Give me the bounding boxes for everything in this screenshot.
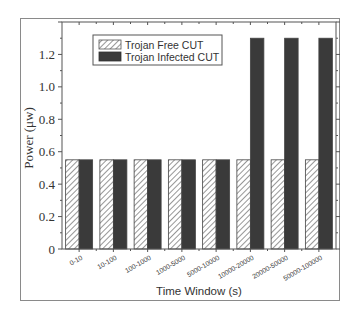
bar-trojan-free bbox=[271, 160, 285, 249]
x-axis-title: Time Window (s) bbox=[156, 285, 242, 297]
x-tick-label: 5000-10000 bbox=[186, 254, 221, 278]
bar-trojan-infected bbox=[319, 38, 333, 249]
y-tick-label: 0.4 bbox=[39, 177, 56, 192]
bar-trojan-infected bbox=[285, 38, 299, 249]
bar-trojan-infected bbox=[79, 160, 93, 249]
x-tick-label: 1000-5000 bbox=[155, 254, 187, 276]
bar-trojan-free bbox=[203, 160, 217, 249]
bar-trojan-free bbox=[100, 160, 114, 249]
bar-trojan-infected bbox=[148, 160, 162, 249]
bar-trojan-infected bbox=[113, 160, 127, 249]
bar-chart: 00.20.40.60.81.01.2 0-1010-100100-100010… bbox=[0, 0, 355, 320]
bar-trojan-infected bbox=[182, 160, 196, 249]
x-tick-label: 100-1000 bbox=[124, 254, 153, 275]
bars-group bbox=[66, 38, 333, 249]
y-tick-label: 0.8 bbox=[39, 112, 55, 127]
bar-trojan-free bbox=[305, 160, 319, 249]
bar-trojan-infected bbox=[250, 38, 264, 249]
x-tick-label: 10000-20000 bbox=[217, 254, 255, 280]
y-tick-label: 1.2 bbox=[39, 47, 55, 62]
x-tick-label: 0-10 bbox=[68, 254, 83, 267]
legend: Trojan Free CUT Trojan Infected CUT bbox=[93, 35, 222, 65]
y-axis-title: Power (μw) bbox=[21, 107, 36, 168]
y-tick-label: 0.2 bbox=[39, 209, 55, 224]
y-tick-label: 0 bbox=[49, 242, 56, 257]
bar-trojan-free bbox=[168, 160, 182, 249]
x-tick-label: 10-100 bbox=[96, 254, 118, 271]
legend-swatch-trojan-infected bbox=[99, 52, 121, 61]
x-tick-label: 50000-100000 bbox=[282, 254, 324, 282]
bar-trojan-infected bbox=[216, 160, 230, 249]
y-tick-label: 0.6 bbox=[39, 144, 56, 159]
legend-label-trojan-free: Trojan Free CUT bbox=[125, 39, 204, 51]
legend-label-trojan-infected: Trojan Infected CUT bbox=[125, 51, 220, 63]
bar-trojan-free bbox=[66, 160, 80, 249]
bar-trojan-free bbox=[134, 160, 148, 249]
legend-swatch-trojan-free bbox=[99, 40, 121, 49]
bar-trojan-free bbox=[237, 160, 251, 249]
y-tick-label: 1.0 bbox=[39, 79, 55, 94]
